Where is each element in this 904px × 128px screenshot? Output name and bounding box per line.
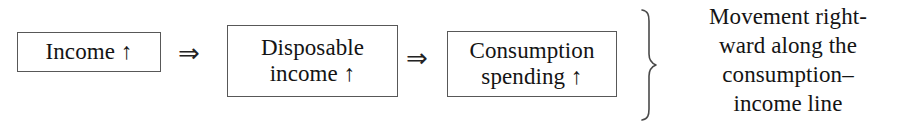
caption-line-3: consumption– xyxy=(676,60,900,89)
node-consumption-spending: Consumption spending ↑ xyxy=(447,31,617,97)
flowchart-diagram: Income ↑ ⇒ Disposable income ↑ ⇒ Consump… xyxy=(0,0,904,128)
node-disposable-income: Disposable income ↑ xyxy=(227,25,398,97)
caption-text: Movement right- ward along the consumpti… xyxy=(676,2,900,118)
node-consumption-spending-label: Consumption spending ↑ xyxy=(463,38,600,90)
implies-arrow-icon-2: ⇒ xyxy=(406,45,428,71)
caption-line-4: income line xyxy=(676,89,900,118)
curly-brace-icon xyxy=(632,8,666,122)
node-disposable-income-label: Disposable income ↑ xyxy=(255,35,370,87)
caption-line-1: Movement right- xyxy=(676,2,900,31)
node-income-label: Income ↑ xyxy=(39,39,138,65)
implies-arrow-icon-1: ⇒ xyxy=(178,40,200,66)
caption-line-2: ward along the xyxy=(676,31,900,60)
node-income: Income ↑ xyxy=(17,32,161,72)
